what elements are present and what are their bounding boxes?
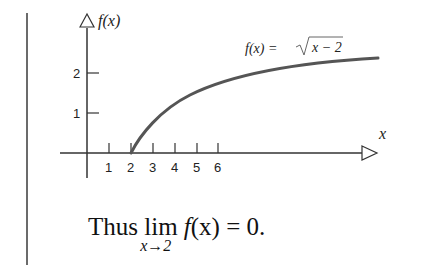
x-axis-label: x bbox=[378, 125, 386, 142]
lim-operator: lim x→2 bbox=[144, 213, 177, 241]
x-tick-5: 5 bbox=[193, 160, 200, 175]
x-tick-4: 4 bbox=[171, 160, 178, 175]
y-axis-label: f(x) bbox=[98, 12, 120, 30]
x-tick-6: 6 bbox=[214, 160, 221, 175]
x-tick-1: 1 bbox=[105, 160, 112, 175]
caption-prefix: Thus bbox=[88, 213, 138, 240]
x-axis-arrow-icon bbox=[362, 146, 377, 160]
curve-label-radicand: x − 2 bbox=[311, 40, 342, 55]
y-tick-2: 2 bbox=[73, 66, 80, 81]
curve-label: f(x) = bbox=[245, 41, 277, 57]
caption-limit: Thus lim x→2 f(x) = 0. bbox=[88, 213, 265, 241]
function-curve bbox=[131, 58, 378, 153]
y-tick-1: 1 bbox=[73, 106, 80, 121]
equals-zero: = 0. bbox=[226, 213, 265, 240]
function-name: f bbox=[184, 213, 191, 240]
function-arg: (x) bbox=[191, 213, 220, 240]
x-tick-2: 2 bbox=[127, 160, 134, 175]
y-axis-arrow-icon bbox=[80, 14, 94, 27]
x-tick-3: 3 bbox=[149, 160, 156, 175]
function-graph: f(x) x 2 1 1 2 3 4 5 6 f(x) = x − 2 bbox=[0, 0, 435, 210]
lim-subscript: x→2 bbox=[140, 237, 171, 255]
